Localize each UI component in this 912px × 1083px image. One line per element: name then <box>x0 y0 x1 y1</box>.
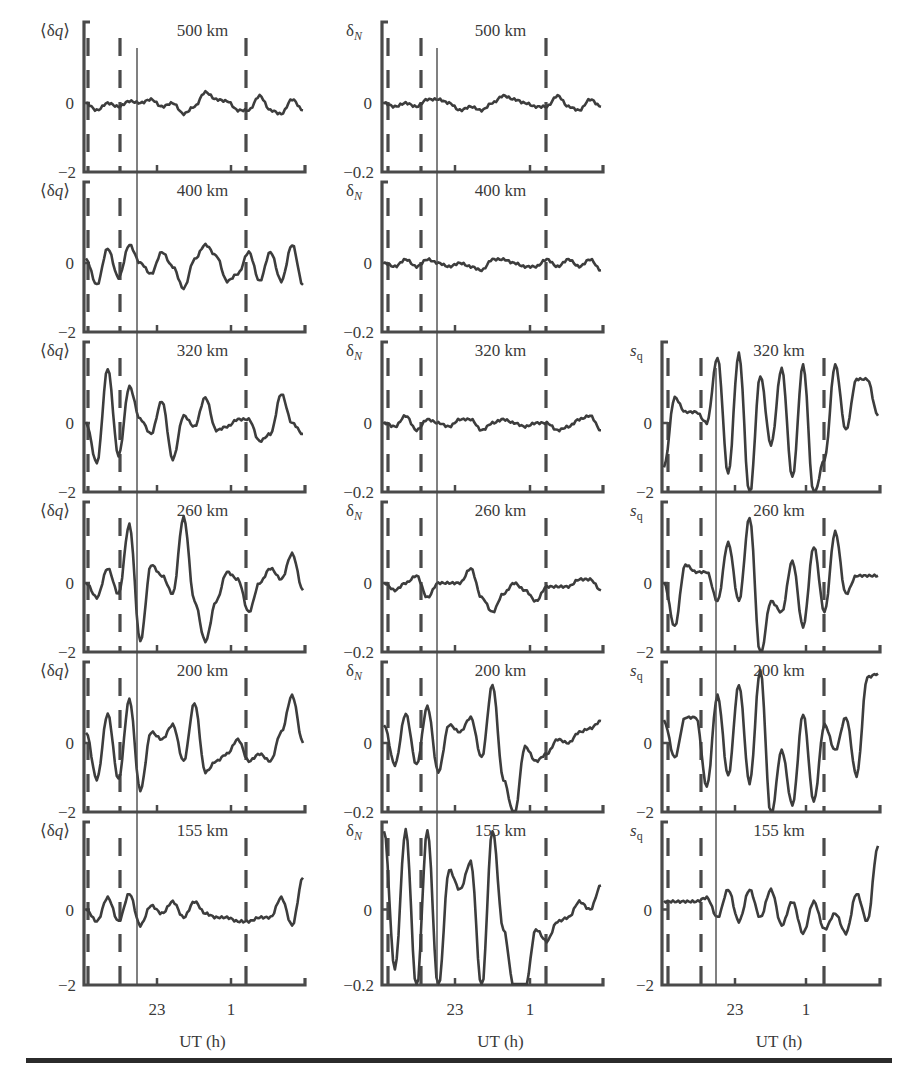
axes-frame <box>662 342 880 492</box>
panel-sq-260km <box>662 502 880 652</box>
panel-dN-155km <box>382 822 603 985</box>
altitude-label: 500 km <box>177 21 228 40</box>
y-tick-zero: 0 <box>364 94 373 113</box>
y-tick-zero: 0 <box>364 574 373 593</box>
panel-dN-400km <box>382 182 603 332</box>
y-tick-bottom: −0.2 <box>343 323 374 342</box>
altitude-label: 500 km <box>475 21 526 40</box>
data-series-line <box>384 685 601 811</box>
y-tick-bottom: −0.2 <box>343 163 374 182</box>
y-tick-zero: 0 <box>66 574 75 593</box>
x-tick-label: 23 <box>447 1000 464 1019</box>
axes-frame <box>84 182 305 332</box>
data-series-line <box>86 369 303 463</box>
y-tick-bottom: −2 <box>636 483 654 502</box>
y-tick-bottom: −2 <box>58 976 76 995</box>
data-series-line <box>384 829 601 984</box>
y-tick-zero: 0 <box>66 94 75 113</box>
x-axis-label: UT (h) <box>179 1032 225 1051</box>
y-tick-zero: 0 <box>644 901 653 920</box>
data-series-line <box>664 518 878 651</box>
y-tick-zero: 0 <box>364 254 373 273</box>
y-tick-bottom: −2 <box>58 483 76 502</box>
axes-frame <box>84 502 305 652</box>
y-tick-bottom: −2 <box>58 163 76 182</box>
x-tick-label: 23 <box>727 1000 744 1019</box>
altitude-label: 260 km <box>177 501 228 520</box>
panel-dN-200km <box>382 662 603 812</box>
x-tick-label: 1 <box>802 1000 811 1019</box>
y-tick-zero: 0 <box>644 574 653 593</box>
y-tick-bottom: −0.2 <box>343 803 374 822</box>
y-axis-label: sq <box>630 501 643 523</box>
y-axis-label: ⟨δq⟩ <box>40 181 70 200</box>
y-axis-label: sq <box>630 821 643 843</box>
y-axis-label: δN <box>346 501 363 523</box>
y-tick-zero: 0 <box>66 254 75 273</box>
y-tick-zero: 0 <box>364 414 373 433</box>
x-tick-label: 1 <box>526 1000 535 1019</box>
y-tick-zero: 0 <box>644 414 653 433</box>
panel-dq-320km <box>84 342 305 492</box>
axes-frame <box>382 22 603 172</box>
panel-dq-500km <box>84 22 305 172</box>
altitude-label: 155 km <box>475 821 526 840</box>
panel-dN-320km <box>382 342 603 492</box>
altitude-label: 155 km <box>177 821 228 840</box>
y-axis-label: δN <box>346 21 363 43</box>
x-axis-label: UT (h) <box>756 1032 802 1051</box>
panel-dN-260km <box>382 502 603 652</box>
figure-canvas: 500 km⟨δq⟩0−2400 km⟨δq⟩0−2320 km⟨δq⟩0−22… <box>0 0 912 1083</box>
figure-bottom-rule <box>26 1058 892 1063</box>
axes-frame <box>382 822 603 985</box>
data-series-line <box>664 353 878 491</box>
axes-frame <box>662 662 880 812</box>
data-series-line <box>384 415 601 431</box>
altitude-label: 320 km <box>177 341 228 360</box>
y-axis-label: sq <box>630 341 643 363</box>
y-tick-bottom: −2 <box>58 323 76 342</box>
y-tick-bottom: −0.2 <box>343 643 374 662</box>
y-tick-bottom: −0.2 <box>343 976 374 995</box>
y-tick-bottom: −2 <box>58 803 76 822</box>
x-tick-label: 23 <box>149 1000 166 1019</box>
data-series-line <box>664 670 878 811</box>
panel-sq-320km <box>662 342 880 492</box>
altitude-label: 200 km <box>475 661 526 680</box>
altitude-label: 400 km <box>475 181 526 200</box>
panel-sq-155km <box>662 822 880 985</box>
y-axis-label: ⟨δq⟩ <box>40 661 70 680</box>
axes-frame <box>84 22 305 172</box>
y-tick-bottom: −2 <box>636 803 654 822</box>
y-tick-zero: 0 <box>364 901 373 920</box>
altitude-label: 400 km <box>177 181 228 200</box>
data-series-line <box>384 568 601 612</box>
x-axis-label: UT (h) <box>477 1032 523 1051</box>
axes-frame <box>84 662 305 812</box>
panel-dN-500km <box>382 22 603 172</box>
y-axis-label: ⟨δq⟩ <box>40 21 70 40</box>
y-tick-zero: 0 <box>644 734 653 753</box>
data-series-line <box>384 258 601 271</box>
y-tick-zero: 0 <box>364 734 373 753</box>
altitude-label: 155 km <box>753 821 804 840</box>
altitude-label: 260 km <box>753 501 804 520</box>
y-tick-bottom: −2 <box>58 643 76 662</box>
y-tick-zero: 0 <box>66 734 75 753</box>
y-tick-bottom: −2 <box>636 976 654 995</box>
y-tick-bottom: −2 <box>636 643 654 662</box>
y-tick-zero: 0 <box>66 414 75 433</box>
y-axis-label: ⟨δq⟩ <box>40 341 70 360</box>
y-tick-bottom: −0.2 <box>343 483 374 502</box>
y-axis-label: δN <box>346 181 363 203</box>
y-axis-label: δN <box>346 341 363 363</box>
altitude-label: 200 km <box>177 661 228 680</box>
y-axis-label: ⟨δq⟩ <box>40 821 70 840</box>
axes-frame <box>382 342 603 492</box>
y-axis-label: ⟨δq⟩ <box>40 501 70 520</box>
panel-dq-400km <box>84 182 305 332</box>
y-axis-label: sq <box>630 661 643 683</box>
y-axis-label: δN <box>346 821 363 843</box>
altitude-label: 260 km <box>475 501 526 520</box>
panel-dq-200km <box>84 662 305 812</box>
